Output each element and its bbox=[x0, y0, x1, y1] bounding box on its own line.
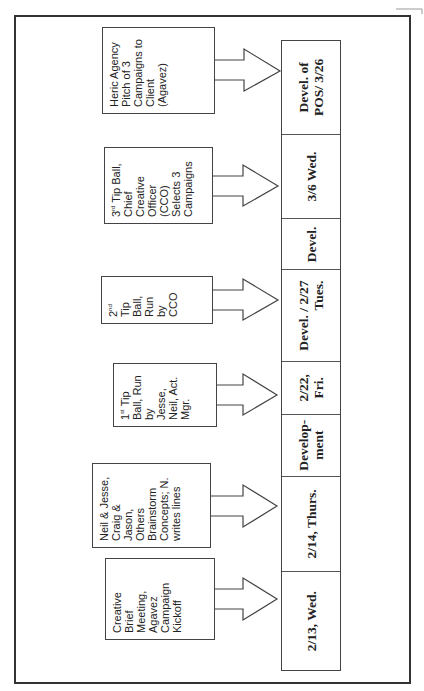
timeline-cell-label: Devel. bbox=[304, 227, 319, 263]
event-line: Meeting, bbox=[135, 565, 147, 633]
timeline-diagram: Creative Brief Meeting, Agavez Campaign … bbox=[14, 17, 413, 688]
event-line: Ball, Run bbox=[131, 370, 143, 420]
ordinal: 2 bbox=[107, 311, 119, 317]
timeline-cell-label: 2/22, Fri. bbox=[296, 374, 326, 401]
ordinal-suffix: rd bbox=[110, 206, 116, 211]
timeline-cell: Develop- ment bbox=[282, 414, 340, 476]
event-line: by bbox=[143, 370, 155, 420]
timeline-cell: Devel. of POS/ 3/26 bbox=[282, 41, 340, 134]
event-line: Neil & Jesse, bbox=[98, 470, 110, 541]
event-box-agency-pitch: Heric Agency Pitch of 3 Campaigns to Cli… bbox=[102, 27, 215, 114]
event-line: 3rd Tip Ball, bbox=[110, 154, 122, 217]
event-line: Creative bbox=[134, 154, 146, 217]
event-line: Run bbox=[143, 283, 155, 317]
ordinal: 3 bbox=[110, 211, 122, 217]
event-line: Campaigns to bbox=[132, 34, 144, 107]
event-line: Brief bbox=[123, 565, 135, 633]
event-line: Client bbox=[144, 34, 156, 107]
event-line: Heric Agency bbox=[108, 34, 120, 107]
ordinal-suffix: nd bbox=[107, 304, 113, 311]
ordinal: 1 bbox=[119, 414, 131, 420]
event-line-text: Tip bbox=[119, 391, 131, 409]
event-line: Campaigns bbox=[182, 154, 194, 217]
event-line: CCO bbox=[167, 283, 179, 317]
page-corner-mark bbox=[394, 0, 424, 6]
timeline-bar: 2/13, Wed. 2/14, Thurs. Develop- ment 2/… bbox=[281, 40, 341, 671]
timeline-cell: 3/6 Wed. bbox=[282, 134, 340, 219]
timeline-cell-label: Develop- ment bbox=[296, 420, 326, 471]
event-line: Concepts; N. bbox=[158, 470, 170, 541]
arrow-icon-tip-ball-1 bbox=[216, 374, 277, 415]
timeline-cell-label: 3/6 Wed. bbox=[304, 152, 319, 202]
event-line: Creative bbox=[111, 565, 123, 633]
event-box-creative-brief: Creative Brief Meeting, Agavez Campaign … bbox=[105, 558, 215, 640]
event-line: (CCO) bbox=[158, 154, 170, 217]
event-line: Tip bbox=[119, 283, 131, 317]
arrow-icon-creative-brief bbox=[214, 578, 277, 620]
arrow-icon-tip-ball-3 bbox=[212, 165, 278, 206]
event-line: (Agavez) bbox=[156, 34, 168, 107]
event-line: by bbox=[155, 283, 167, 317]
event-line: Chief bbox=[122, 154, 134, 217]
event-line: Campaign bbox=[159, 565, 171, 633]
event-line: 2nd bbox=[107, 283, 119, 317]
timeline-cell: 2/14, Thurs. bbox=[282, 476, 340, 572]
event-line: Mgr. bbox=[179, 370, 191, 420]
event-box-tip-ball-3: 3rd Tip Ball, Chief Creative Officer (CC… bbox=[104, 147, 213, 224]
event-line: Jason, bbox=[122, 470, 134, 541]
event-box-tip-ball-1: 1st Tip Ball, Run by Jesse, Neil, Act. M… bbox=[113, 363, 217, 427]
event-line: Kickoff bbox=[171, 565, 183, 633]
timeline-cell: Devel. / 2/27 Tues. bbox=[282, 269, 340, 361]
ordinal-suffix: st bbox=[119, 409, 125, 414]
event-line: 1st Tip bbox=[119, 370, 131, 420]
event-box-brainstorm: Neil & Jesse, Craig & Jason, Others Brai… bbox=[92, 463, 211, 548]
timeline-cell-label: 2/13, Wed. bbox=[304, 591, 319, 651]
timeline-cell: 2/13, Wed. bbox=[282, 571, 340, 670]
event-line: Brainstorm bbox=[146, 470, 158, 541]
event-box-tip-ball-2: 2nd Tip Ball, Run by CCO bbox=[101, 276, 213, 324]
arrow-icon-tip-ball-2 bbox=[212, 279, 278, 320]
event-line: Selects 3 bbox=[170, 154, 182, 217]
event-line: writes lines bbox=[170, 470, 182, 541]
event-line: Pitch of 3 bbox=[120, 34, 132, 107]
timeline-cell-label: Devel. / 2/27 Tues. bbox=[296, 281, 326, 351]
timeline-cell: Devel. bbox=[282, 218, 340, 269]
timeline-cell-label: Devel. of POS/ 3/26 bbox=[296, 59, 326, 116]
event-line-text: Tip Ball, bbox=[110, 163, 122, 205]
timeline-cell: 2/22, Fri. bbox=[282, 361, 340, 414]
arrow-icon-agency-pitch bbox=[214, 49, 280, 91]
event-line: Officer bbox=[146, 154, 158, 217]
event-line: Neil, Act. bbox=[167, 370, 179, 420]
event-line: Agavez bbox=[147, 565, 159, 633]
diagram-frame: Creative Brief Meeting, Agavez Campaign … bbox=[14, 15, 411, 684]
arrow-icon-brainstorm bbox=[210, 485, 277, 527]
event-line: Jesse, bbox=[155, 370, 167, 420]
event-line: Craig & bbox=[110, 470, 122, 541]
timeline-cell-label: 2/14, Thurs. bbox=[304, 489, 319, 558]
event-line: Ball, bbox=[131, 283, 143, 317]
event-line: Others bbox=[134, 470, 146, 541]
